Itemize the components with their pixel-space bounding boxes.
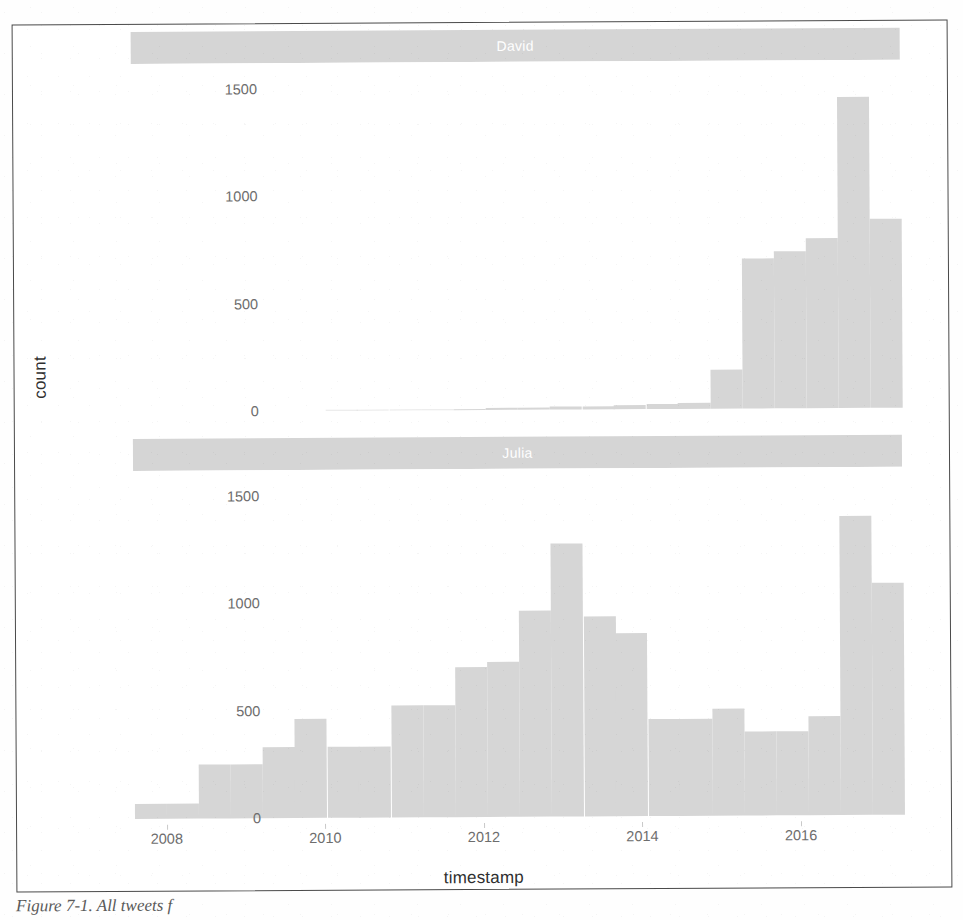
facet-strip-julia: Julia (133, 435, 902, 471)
x-axis-tick-label: 2014 (626, 828, 658, 844)
histogram-bar (421, 409, 453, 410)
histogram-bar (518, 407, 550, 409)
histogram-bar (872, 583, 905, 815)
histogram-bar (359, 747, 392, 818)
x-axis-ticks: 20082010201220142016 (135, 827, 904, 857)
y-axis-title: count (30, 317, 51, 437)
histogram-bar (614, 405, 646, 409)
histogram-bar (837, 96, 871, 408)
histogram-bar (295, 719, 328, 818)
histogram-bar (774, 251, 807, 408)
figure-caption: Figure 7-1. All tweets f (16, 896, 172, 917)
scanned-page: count David 050010001500 Julia 050010001… (0, 0, 963, 920)
histogram-bar (454, 409, 486, 410)
histogram-bar (710, 370, 742, 409)
x-axis-tick-mark (642, 822, 643, 827)
histogram-bar (135, 804, 167, 819)
histogram-bar (325, 410, 357, 411)
x-axis-tick-label: 2016 (785, 827, 817, 843)
histogram-bar (648, 719, 681, 816)
y-axis-tick-label: 1500 (199, 488, 259, 504)
histogram-bar (744, 732, 777, 816)
plot-panel-julia (133, 467, 904, 819)
facet-strip-label-julia: Julia (133, 435, 902, 471)
histogram-bar (390, 409, 422, 410)
histogram-bar (550, 544, 584, 817)
histogram-bar (519, 610, 552, 816)
y-axis-tick-label: 1500 (197, 81, 257, 97)
histogram-bar (582, 406, 614, 409)
x-axis-tick-mark (801, 821, 802, 826)
histogram-bar (840, 516, 874, 815)
histogram-bar (263, 747, 296, 818)
histogram-bar (550, 407, 582, 410)
y-axis-tick-label: 500 (198, 296, 258, 312)
histogram-bar (870, 219, 903, 408)
histogram-bar (357, 409, 389, 410)
histogram-bar (485, 408, 517, 410)
histogram-bar (423, 705, 456, 817)
histogram-bar (742, 258, 775, 409)
histogram-bar (646, 404, 678, 409)
facet-strip-david: David (131, 28, 900, 64)
histogram-bar (487, 662, 520, 817)
y-axis-tick-label: 500 (200, 703, 260, 719)
histogram-bar (167, 804, 199, 819)
facet-strip-label-david: David (131, 28, 900, 64)
histogram-bar (391, 706, 424, 818)
histogram-bar (455, 667, 488, 818)
x-axis-tick-mark (484, 823, 485, 828)
histogram-bar (777, 731, 810, 815)
facet-panel-david: David 050010001500 (131, 28, 902, 422)
y-axis-tick-label: 0 (201, 810, 261, 826)
figure-content: count David 050010001500 Julia 050010001… (0, 0, 963, 920)
histogram-bars-david (131, 60, 902, 412)
histogram-bars-julia (133, 467, 904, 819)
y-axis-tick-label: 1000 (200, 595, 260, 611)
histogram-bar (615, 633, 648, 816)
histogram-bar (808, 716, 841, 815)
histogram-bar (583, 616, 616, 816)
histogram-bar (680, 719, 713, 816)
histogram-bar (678, 402, 710, 409)
histogram-bar (712, 708, 745, 816)
histogram-bar (806, 238, 839, 408)
y-axis-tick-label: 0 (199, 403, 259, 419)
y-axis-tick-label: 1000 (197, 188, 257, 204)
facet-panel-julia: Julia 050010001500 (133, 435, 904, 829)
histogram-bar (327, 747, 360, 818)
x-axis-tick-mark (167, 825, 168, 830)
x-axis-title: timestamp (2, 865, 963, 890)
x-axis-tick-label: 2010 (309, 830, 341, 846)
x-axis-tick-label: 2012 (468, 829, 500, 845)
x-axis-tick-label: 2008 (151, 831, 183, 847)
x-axis-tick-mark (325, 824, 326, 829)
plot-panel-david (131, 60, 902, 412)
